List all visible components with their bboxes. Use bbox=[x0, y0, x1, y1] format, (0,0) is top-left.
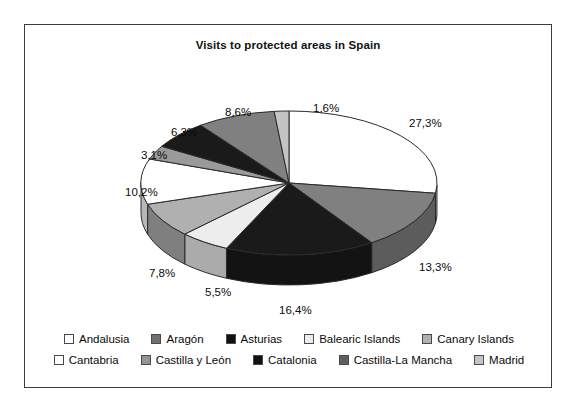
legend-item-balearic-islands[interactable]: Balearic Islands bbox=[304, 333, 400, 345]
legend-label: Madrid bbox=[489, 354, 524, 366]
legend-swatch-icon bbox=[304, 334, 314, 344]
legend-swatch-icon bbox=[151, 334, 161, 344]
legend-item-asturias[interactable]: Asturias bbox=[226, 333, 283, 345]
slice-label-canary: 7,8% bbox=[149, 267, 175, 279]
slice-label-castilla-mancha: 8,6% bbox=[225, 106, 251, 118]
legend-swatch-icon bbox=[141, 355, 151, 365]
legend-item-madrid[interactable]: Madrid bbox=[474, 354, 524, 366]
legend-swatch-icon bbox=[54, 355, 64, 365]
legend-label: Aragón bbox=[166, 333, 203, 345]
legend-label: Castilla y León bbox=[156, 354, 231, 366]
legend-swatch-icon bbox=[474, 355, 484, 365]
legend-row-1: Andalusia Aragón Asturias Balearic Islan… bbox=[25, 333, 553, 345]
legend-label: Balearic Islands bbox=[319, 333, 400, 345]
slice-label-aragon: 13,3% bbox=[419, 261, 452, 273]
slice-label-castilla-leon: 3,1% bbox=[141, 149, 167, 161]
legend-item-castilla-la-mancha[interactable]: Castilla-La Mancha bbox=[339, 354, 452, 366]
legend-item-cantabria[interactable]: Cantabria bbox=[54, 354, 119, 366]
legend-swatch-icon bbox=[226, 334, 236, 344]
legend-label: Asturias bbox=[241, 333, 283, 345]
legend-item-andalusia[interactable]: Andalusia bbox=[64, 333, 130, 345]
pie-chart-svg bbox=[25, 55, 553, 303]
legend-item-castilla-y-leon[interactable]: Castilla y León bbox=[141, 354, 231, 366]
legend-swatch-icon bbox=[253, 355, 263, 365]
slice-label-catalonia: 6,3% bbox=[171, 126, 197, 138]
pie-chart-area: 27,3% 13,3% 16,4% 5,5% 7,8% 10,2% 3,1% 6… bbox=[25, 55, 553, 303]
slice-label-madrid: 1,6% bbox=[313, 102, 339, 114]
legend-swatch-icon bbox=[422, 334, 432, 344]
legend-label: Andalusia bbox=[79, 333, 130, 345]
legend-label: Cantabria bbox=[69, 354, 119, 366]
chart-title: Visits to protected areas in Spain bbox=[25, 39, 551, 51]
slice-label-balearic: 5,5% bbox=[205, 286, 231, 298]
legend-label: Canary Islands bbox=[437, 333, 514, 345]
legend-label: Castilla-La Mancha bbox=[354, 354, 452, 366]
legend-item-aragon[interactable]: Aragón bbox=[151, 333, 203, 345]
legend-item-catalonia[interactable]: Catalonia bbox=[253, 354, 317, 366]
chart-frame: Visits to protected areas in Spain 27,3%… bbox=[24, 24, 552, 388]
legend-row-2: Cantabria Castilla y León Catalonia Cast… bbox=[25, 354, 553, 366]
legend-swatch-icon bbox=[64, 334, 74, 344]
legend-item-canary-islands[interactable]: Canary Islands bbox=[422, 333, 514, 345]
slice-label-andalusia: 27,3% bbox=[409, 117, 442, 129]
chart-legend: Andalusia Aragón Asturias Balearic Islan… bbox=[25, 333, 553, 375]
slice-label-asturias: 16,4% bbox=[279, 304, 312, 316]
slice-label-cantabria: 10,2% bbox=[125, 186, 158, 198]
legend-swatch-icon bbox=[339, 355, 349, 365]
legend-label: Catalonia bbox=[268, 354, 317, 366]
